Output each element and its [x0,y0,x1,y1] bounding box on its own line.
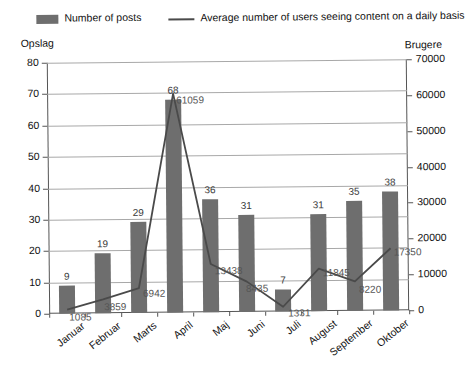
right-tick-label: 60000 [416,88,445,100]
chart-legend: Number of posts Average number of users … [0,2,466,40]
chart-container: Number of posts Average number of users … [0,0,467,378]
legend-label-posts: Number of posts [64,11,141,24]
right-tick-label: 0 [418,303,424,315]
left-tick-label: 30 [29,213,41,225]
left-tick-label: 40 [28,181,40,193]
right-tick-label: 30000 [417,195,446,207]
x-axis-labels: JanuarFebruarMartsAprilMajJuniJuliAugust… [49,310,410,378]
right-tick-mark [407,95,412,96]
legend-label-users: Average number of users seeing content o… [200,9,464,24]
legend-item-users: Average number of users seeing content o… [168,9,464,24]
x-axis-label: Oktober [374,316,411,349]
right-tick-mark [407,59,412,60]
left-tick-label: 60 [28,119,40,131]
right-tick-mark [407,131,412,132]
plot-area: 01020304050607080 0100002000030000400005… [47,59,409,313]
right-tick-label: 50000 [416,124,445,136]
x-axis-label: Marts [131,319,159,345]
right-tick-label: 40000 [417,160,446,172]
right-tick-label: 10000 [418,267,447,279]
x-axis-label: Juli [283,317,303,336]
right-tick-label: 20000 [417,231,446,243]
line-swatch-icon [168,18,194,20]
x-tick-mark [409,310,410,314]
line-value-label: 8220 [359,283,381,294]
right-tick-mark [409,274,414,275]
x-axis-label: Juni [244,318,267,339]
line-value-label: 6942 [143,288,165,299]
line-value-label: 17350 [394,246,422,257]
left-tick-label: 20 [29,244,41,256]
left-tick-label: 80 [27,56,39,68]
line-value-label: 13438 [215,265,243,276]
line-value-label: 8435 [246,282,268,293]
left-axis-title: Opslag [21,37,54,49]
right-tick-mark [408,167,413,168]
right-axis-title: Brugere [405,38,442,50]
legend-item-posts: Number of posts [36,11,141,24]
x-axis-label: Februar [86,319,122,351]
line-value-label: 3859 [104,301,126,312]
left-tick-label: 10 [29,275,41,287]
right-tick-mark [408,239,413,240]
x-axis-label: April [171,318,195,340]
x-axis-label: Januar [54,319,87,348]
line-value-label: 11845 [323,266,350,277]
right-tick-mark [408,203,413,204]
line-value-label: 61059 [176,94,204,105]
left-tick-label: 0 [35,307,41,319]
left-tick-label: 50 [28,150,40,162]
left-tick-label: 70 [27,87,39,99]
bar-swatch-icon [36,15,58,24]
x-axis-label: Maj [210,318,231,338]
right-tick-label: 70000 [416,52,445,64]
